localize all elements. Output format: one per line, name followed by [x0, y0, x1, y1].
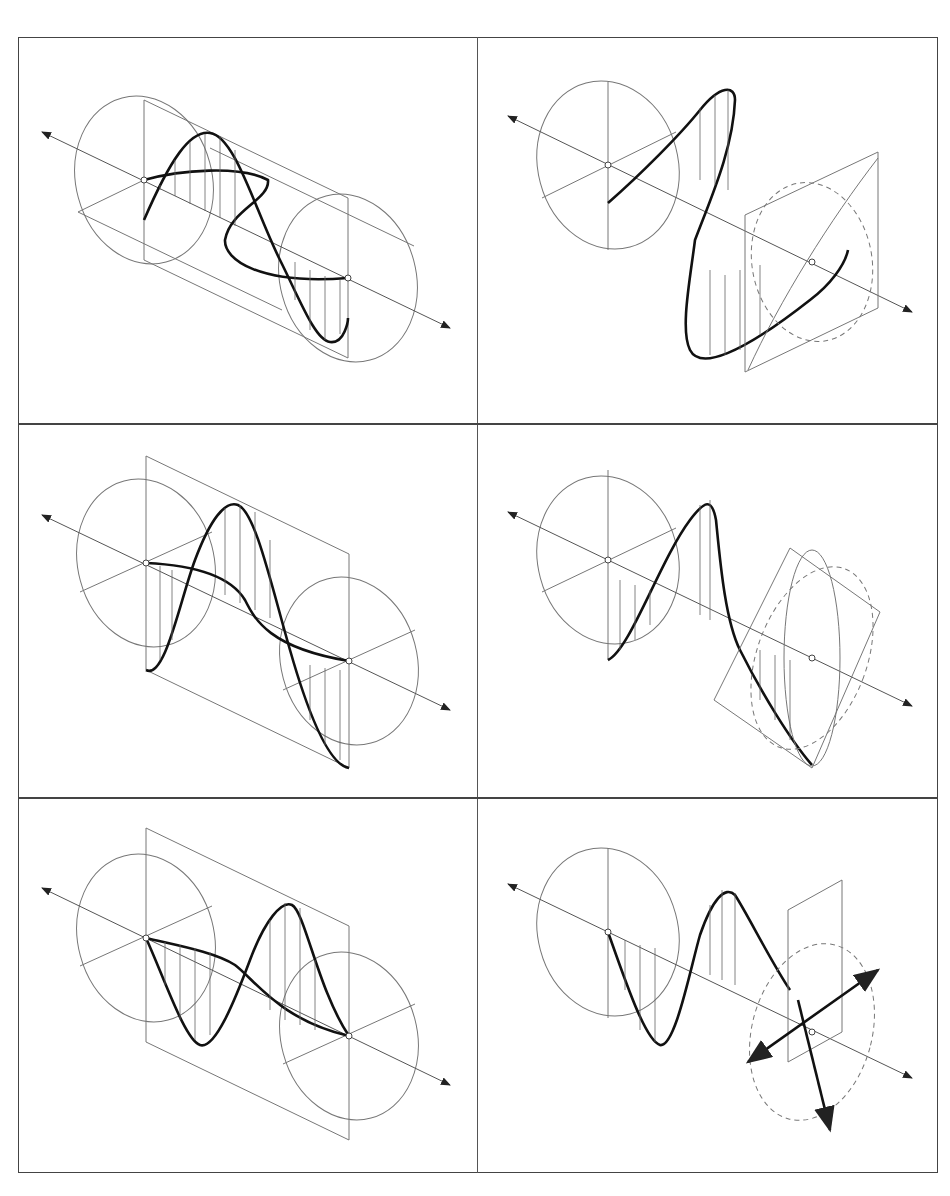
panel-4-diagram: [508, 460, 912, 768]
propagation-axis-arrow: [42, 132, 450, 328]
panel-2-diagram: [508, 65, 912, 372]
panel-1-diagram: [42, 80, 450, 377]
propagation-axis-arrow: [42, 515, 450, 710]
panel-3-diagram: [42, 456, 450, 768]
panel-5-diagram: [42, 828, 450, 1140]
diagram-canvas: [0, 0, 950, 1196]
field-vector-arrow: [798, 1000, 830, 1130]
propagation-axis-arrow: [42, 888, 450, 1085]
panel-6-diagram: [508, 832, 912, 1135]
